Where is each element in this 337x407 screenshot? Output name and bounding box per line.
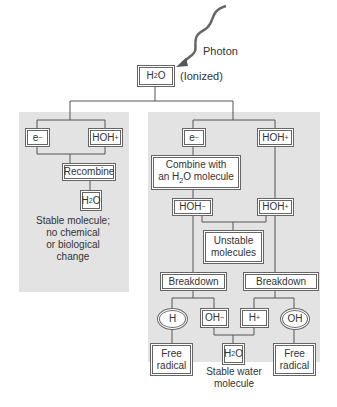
oh-radical-oval: OH bbox=[280, 308, 310, 330]
stable-molecule-caption: Stable molecule; no chemical or biologic… bbox=[26, 215, 120, 263]
left-hoh-plus-box: HOH+ bbox=[88, 128, 123, 147]
recombine-box: Recombine bbox=[62, 163, 116, 181]
right-hoh-plus-top-box: HOH+ bbox=[257, 128, 294, 147]
photon-arrowhead-icon bbox=[176, 58, 188, 67]
ionized-note: (Ionized) bbox=[180, 70, 223, 82]
h-plus-box: H+ bbox=[240, 308, 269, 328]
stable-water-caption: Stable water molecule bbox=[198, 366, 270, 390]
photon-label: Photon bbox=[203, 45, 238, 57]
right-electron-box: e− bbox=[182, 128, 206, 147]
ionized-water-box: H2O bbox=[137, 65, 175, 87]
left-electron-box: e− bbox=[25, 128, 50, 147]
free-radical-right-box: Free radical bbox=[273, 343, 316, 376]
breakdown-left-box: Breakdown bbox=[160, 272, 227, 291]
breakdown-right-box: Breakdown bbox=[243, 272, 319, 291]
hoh-plus-mid-box: HOH+ bbox=[257, 198, 294, 216]
combine-with-water-box: Combine with an H2O molecule bbox=[151, 155, 241, 190]
left-water-box: H2O bbox=[80, 190, 102, 211]
unstable-molecules-box: Unstable molecules bbox=[203, 230, 264, 264]
oh-minus-box: OH− bbox=[200, 308, 229, 328]
free-radical-left-box: Free radical bbox=[150, 343, 193, 376]
right-water-box: H2O bbox=[222, 343, 245, 365]
hoh-minus-box: HOH− bbox=[172, 198, 213, 216]
h-radical-oval: H bbox=[157, 308, 188, 330]
